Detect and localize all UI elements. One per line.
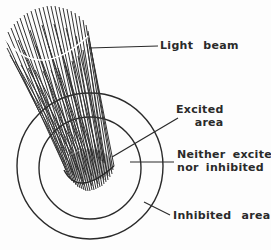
label-neither-area: Neither excited nor inhibited xyxy=(177,148,271,174)
label-neither-line1: Neither excited xyxy=(177,148,271,161)
leader-light-beam xyxy=(89,46,158,48)
excited-area-spot xyxy=(68,149,112,181)
label-excited-line2: area xyxy=(176,116,224,129)
label-excited-area: Excited area xyxy=(176,103,224,129)
receptive-field-diagram: Light beam Excited area Neither excited … xyxy=(0,0,271,250)
label-neither-line2: nor inhibited xyxy=(177,161,271,174)
label-light-beam: Light beam xyxy=(160,39,239,52)
leader-excited xyxy=(112,118,178,157)
label-excited-line1: Excited xyxy=(176,103,224,116)
leader-inhibited xyxy=(144,202,170,215)
label-inhibited-area: Inhibited area xyxy=(173,209,271,222)
